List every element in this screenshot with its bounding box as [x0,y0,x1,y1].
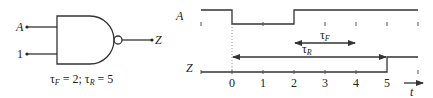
tick-label-0: 0 [229,76,235,90]
time-tick-labels: 0 1 2 3 4 5 [229,76,390,90]
signal-a-label: A [175,9,184,23]
timing-diagram: A τF τR Z [175,9,423,98]
tick-label-4: 4 [353,76,359,90]
tick-label-2: 2 [291,76,297,90]
input-a-label: A [15,20,24,34]
nand-gate: A 1 Z τF = 2; τR = 5 [15,16,162,87]
signal-z-label: Z [186,61,193,75]
nand-timing-diagram: A 1 Z τF = 2; τR = 5 A τF [0,0,433,98]
output-terminal [150,38,153,41]
input-1-label: 1 [17,47,23,61]
nand-gate-body [57,16,114,64]
tau-r-label: τR [302,42,312,57]
tick-label-5: 5 [384,76,390,90]
output-z-label: Z [155,33,162,47]
tick-label-3: 3 [322,76,328,90]
tau-f-label: τF [320,28,330,43]
signal-z-waveform [201,57,418,72]
time-axis-label: t [410,85,414,98]
delay-caption: τF = 2; τR = 5 [50,72,113,87]
signal-a-waveform [201,10,418,24]
inversion-bubble [114,36,122,44]
tick-label-1: 1 [260,76,266,90]
